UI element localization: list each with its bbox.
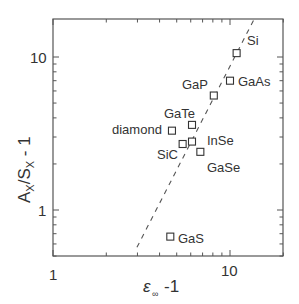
data-point-sic: SiC [157, 141, 186, 162]
square-marker [167, 233, 174, 240]
square-marker [233, 50, 240, 57]
plot-frame [53, 19, 283, 256]
square-marker [179, 141, 186, 148]
scatter-chart: SiGaAsGaPGaTediamondSiCInSeGaSeGaS 1 10 … [0, 0, 299, 304]
data-point-gate: GaTe [164, 106, 196, 128]
data-point-gas: GaS [167, 231, 205, 246]
y-tick-label-10: 10 [30, 49, 47, 66]
x-axis-title: ε ∞ -1 [143, 277, 179, 299]
square-marker [168, 127, 175, 134]
point-label: GaTe [164, 106, 195, 121]
data-point-inse: InSe [189, 133, 234, 148]
square-marker [189, 138, 196, 145]
point-label: Si [247, 33, 259, 48]
point-label: GaP [182, 77, 208, 92]
x-tick-label-10: 10 [221, 262, 238, 279]
x-tick-label-1: 1 [49, 266, 57, 283]
y-axis-text: AX/SX - 1 [15, 136, 36, 203]
point-label: InSe [207, 133, 234, 148]
data-point-gap: GaP [182, 77, 217, 99]
point-label: SiC [157, 147, 178, 162]
point-label: GaSe [207, 160, 240, 175]
axis-ticks [53, 19, 283, 256]
square-marker [197, 148, 204, 155]
data-point-si: Si [233, 33, 259, 57]
epsilon-symbol: ε [143, 277, 151, 296]
data-points: SiGaAsGaPGaTediamondSiCInSeGaSeGaS [112, 33, 271, 246]
square-marker [210, 92, 217, 99]
point-label: GaAs [238, 74, 271, 89]
data-point-diamond: diamond [112, 122, 175, 137]
point-label: diamond [112, 122, 162, 137]
square-marker [189, 121, 196, 128]
x-axis-minus-one: -1 [164, 277, 179, 296]
data-point-gaas: GaAs [227, 74, 272, 89]
data-point-gase: GaSe [197, 148, 240, 175]
point-label: GaS [178, 231, 204, 246]
infinity-subscript: ∞ [152, 289, 158, 299]
y-tick-label-1: 1 [38, 202, 46, 219]
square-marker [227, 77, 234, 84]
y-axis-title: AX/SX - 1 [15, 136, 36, 203]
